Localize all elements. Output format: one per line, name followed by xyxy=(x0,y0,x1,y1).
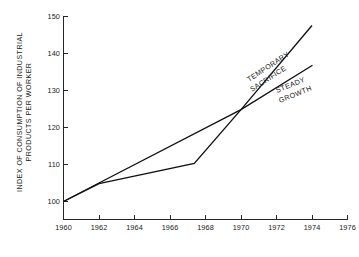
y-tick-label-100: 100 xyxy=(48,197,60,206)
x-tick-label-1970: 1970 xyxy=(233,223,250,232)
series-label-steady-growth: STEADY GROWTH xyxy=(274,75,313,105)
x-tick-label-1962: 1962 xyxy=(91,223,108,232)
x-tick-label-1974: 1974 xyxy=(304,223,321,232)
x-tick-label-1968: 1968 xyxy=(197,223,214,232)
line-chart: 150 140 130 120 110 100 1960 1962 1964 1… xyxy=(0,0,359,257)
y-tick-label-110: 110 xyxy=(48,160,60,169)
x-tick-label-1966: 1966 xyxy=(162,223,179,232)
series-line-temporary-sacrifice xyxy=(64,26,313,202)
chart-container: 150 140 130 120 110 100 1960 1962 1964 1… xyxy=(0,0,359,257)
y-axis-title-line1: INDEX OF CONSUMPTION OF INDUSTRIAL xyxy=(16,32,24,192)
y-tick-label-120: 120 xyxy=(48,123,60,132)
y-axis-title: INDEX OF CONSUMPTION OF INDUSTRIAL PRODU… xyxy=(16,32,33,192)
x-tick-label-1972: 1972 xyxy=(268,223,285,232)
x-tick-label-1960: 1960 xyxy=(55,223,72,232)
y-tick-label-150: 150 xyxy=(48,12,60,21)
x-tick-label-1964: 1964 xyxy=(126,223,143,232)
y-axis-tick-labels: 150 140 130 120 110 100 xyxy=(48,12,60,206)
x-axis-tick-labels: 1960 1962 1964 1966 1968 1970 1972 1974 … xyxy=(55,223,356,232)
y-tick-label-130: 130 xyxy=(48,86,60,95)
x-axis-ticks xyxy=(64,215,348,220)
y-tick-label-140: 140 xyxy=(48,49,60,58)
y-axis-title-line2: PRODUCTS PER WORKER xyxy=(25,63,33,162)
y-axis-ticks xyxy=(64,17,69,202)
x-tick-label-1976: 1976 xyxy=(339,223,356,232)
